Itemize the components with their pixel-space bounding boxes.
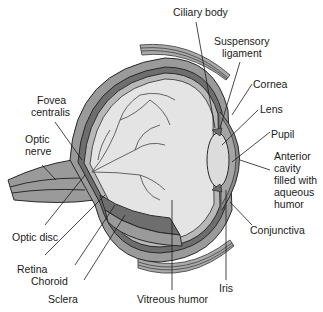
label-cornea: Cornea: [253, 78, 287, 90]
label-pupil: Pupil: [271, 128, 294, 140]
label-retina: Retina: [17, 263, 47, 275]
label-suspensory-ligament-line2: ligament: [222, 47, 262, 59]
label-optic-nerve-line1: Optic: [25, 133, 50, 145]
label-vitreous-humor: Vitreous humor: [137, 293, 208, 305]
label-sclera: Sclera: [48, 293, 78, 305]
label-suspensory-ligament-line1: Suspensory: [214, 35, 269, 47]
label-lens: Lens: [260, 103, 283, 115]
label-choroid: Choroid: [31, 275, 68, 287]
label-anterior-cavity-line3: filled with: [274, 174, 317, 186]
label-anterior-cavity-line4: aqueous: [274, 186, 314, 198]
label-anterior-cavity-line2: cavity: [274, 162, 301, 174]
label-optic-nerve-line2: nerve: [25, 145, 51, 157]
label-anterior-cavity-line1: Anterior: [274, 150, 311, 162]
label-optic-disc: Optic disc: [12, 231, 58, 243]
label-iris: Iris: [219, 282, 233, 294]
label-fovea-centralis-line2: centralis: [31, 106, 70, 118]
label-conjunctiva: Conjunctiva: [250, 224, 305, 236]
label-anterior-cavity-line5: humor: [274, 198, 304, 210]
label-ciliary-body: Ciliary body: [173, 6, 228, 18]
label-fovea-centralis-line1: Fovea: [37, 94, 66, 106]
